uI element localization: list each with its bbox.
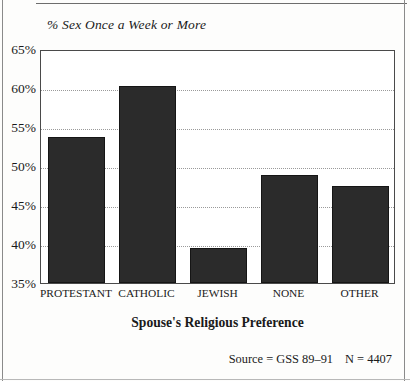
bar — [48, 137, 105, 283]
x-axis-tick-label: PROTESTANT — [40, 288, 111, 299]
page-rule-right — [404, 0, 405, 381]
x-axis-tick-label: JEWISH — [182, 288, 253, 299]
y-axis-tick-label: 40% — [2, 238, 36, 252]
y-axis-tick-label: 45% — [2, 199, 36, 213]
plot-area — [40, 50, 395, 284]
x-axis-labels: PROTESTANTCATHOLICJEWISHNONEOTHER — [40, 288, 395, 306]
chart-title: % Sex Once a Week or More — [47, 17, 206, 33]
y-axis: 65%60%55%50%45%40%35% — [0, 50, 36, 284]
bar — [261, 175, 318, 283]
chart-page: % Sex Once a Week or More 65%60%55%50%45… — [0, 0, 410, 381]
bar — [332, 186, 389, 284]
y-axis-tick-label: 50% — [2, 160, 36, 174]
y-axis-tick-label: 55% — [2, 121, 36, 135]
x-axis-tick-label: OTHER — [324, 288, 395, 299]
bar — [190, 248, 247, 283]
sample-size-text: N = 4407 — [345, 352, 392, 366]
page-rule-top — [36, 3, 407, 4]
x-axis-tick-label: NONE — [253, 288, 324, 299]
source-note: Source = GSS 89–91N = 4407 — [180, 352, 392, 367]
y-axis-tick-label: 65% — [2, 43, 36, 57]
bar-series — [41, 51, 394, 283]
x-axis-title: Spouse's Religious Preference — [40, 315, 395, 331]
bar — [119, 86, 176, 283]
source-text: Source = GSS 89–91 — [229, 352, 333, 366]
y-axis-tick-label: 35% — [2, 277, 36, 291]
x-axis-tick-label: CATHOLIC — [111, 288, 182, 299]
y-axis-tick-label: 60% — [2, 82, 36, 96]
page-rule-bottom — [0, 379, 410, 380]
